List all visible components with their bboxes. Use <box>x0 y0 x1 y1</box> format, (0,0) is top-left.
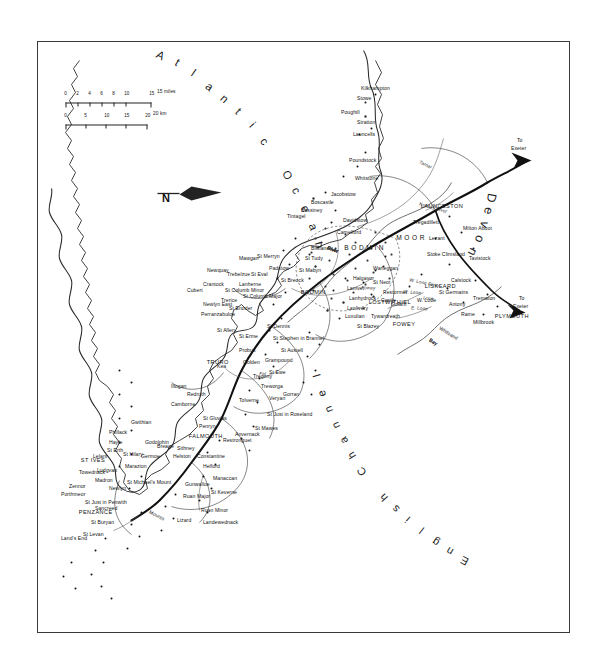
scale-km-unit: 20 km <box>153 112 166 117</box>
place-label-treworga: Treworga <box>260 383 282 388</box>
place-label-germoe: Germoe <box>140 453 159 458</box>
place-label-st-allen: St Allen <box>216 327 234 332</box>
place-label-tolverne: Tolverne <box>238 397 258 402</box>
place-label-st-breock: St Breock <box>280 277 303 282</box>
scale-miles-unit: 15 miles <box>157 90 176 95</box>
place-label-trematon: Trematon <box>472 295 494 300</box>
town-st-ives: ST IVES <box>80 457 105 463</box>
place-label-ruan-minor: Ruan Minor <box>200 507 227 512</box>
river-fowey: Fowey <box>361 286 375 291</box>
place-label-camelford: Camelford <box>336 229 360 234</box>
place-label-marazion: Marazion <box>124 463 146 468</box>
place-label-st-dennis: St Dennis <box>266 323 289 328</box>
place-label-golden: Golden <box>242 359 259 364</box>
place-label-grampound: Grampound <box>264 357 292 362</box>
place-label-st-just-in-roseland: St Just in Roseland <box>266 411 311 416</box>
place-label-st-michael-s-mount: St Michael's Mount <box>126 479 170 484</box>
place-label-lanherne: Lanherne <box>238 281 260 286</box>
arc-letter: D <box>484 192 499 203</box>
place-label-stoke-climsland: Stoke Climsland <box>426 251 464 256</box>
place-label-st-buryan: St Buryan <box>90 519 113 524</box>
river-fal-2: Fal <box>259 372 266 377</box>
place-label-gwithian: Gwithian <box>130 419 150 424</box>
place-label-manaccan: Manaccan <box>212 475 236 480</box>
scale-miles-tick: 8 <box>112 92 115 97</box>
place-label-mawgan: Mawgan <box>238 255 258 260</box>
place-label-antony: Antony <box>448 301 464 306</box>
place-label-tavistock: Tavistock <box>468 255 490 260</box>
place-label-newlyn-east: Newlyn East <box>202 301 231 306</box>
scale-miles-tick: 15 <box>149 92 154 97</box>
place-label-gunwalloe: Gunwalloe <box>184 481 209 486</box>
town-plymouth: PLYMOUTH <box>494 313 528 319</box>
place-label-helston: Helston <box>172 453 190 458</box>
compass-label-n: N <box>162 193 170 204</box>
place-label-millbrook: Millbrook <box>472 319 493 324</box>
place-label-perranzabuloe: Perranzabuloe <box>200 311 234 316</box>
to-exeter-road-label-b: To <box>518 295 524 300</box>
place-label-whitstone: Whitstone <box>354 175 377 180</box>
place-label-tregadillett: Tregadillett <box>412 219 438 224</box>
place-label-land-s-end: Land's End <box>60 535 86 540</box>
place-label-towednack: Towednack <box>78 469 104 474</box>
place-label-newquay: Newquay <box>206 267 228 272</box>
place-label-jacobstow: Jacobstow <box>330 191 355 196</box>
scale-km-tick: 0 <box>64 114 67 119</box>
place-label-luxulian: Luxulian <box>344 313 364 318</box>
river-hayle-line <box>113 512 141 530</box>
place-label-st-stephen-in-brannel: St Stephen in Brannel <box>272 335 323 340</box>
place-label-camborne: Camborne <box>170 401 194 406</box>
moor-label: MOOR <box>396 235 427 242</box>
place-label-gorran: Gorran <box>282 391 298 396</box>
place-label-st-just-in-penwith: St Just in Penwith <box>84 499 126 504</box>
place-label-tywardreath: Tywardreath <box>370 313 399 318</box>
place-label-constantine: Constantine <box>196 453 224 458</box>
place-label-restronguet: Restronguet <box>222 437 251 442</box>
town-bodmin: BODMIN <box>300 289 325 295</box>
place-label-davidstow: Davidstow <box>342 217 366 222</box>
place-label-st-keverne: St Keverne <box>210 489 236 494</box>
river-w-looe: W. Looe <box>402 290 420 296</box>
place-label-landewednack: Landewednack <box>202 519 237 524</box>
place-label-hayle: Hayle <box>108 439 121 444</box>
place-label-lizard: Lizard <box>176 517 190 522</box>
scale-km-tick: 20 <box>145 114 150 119</box>
bodmin-moor-label: BODMIN <box>344 245 386 252</box>
place-label-boscastle: Boscastle <box>310 199 333 204</box>
place-label-lanlivery: Lanlivery <box>346 305 367 310</box>
place-label-stratton: Stratton <box>356 119 374 124</box>
place-label-st-neot: St Neot <box>372 279 390 284</box>
scale-km-tick: 5 <box>84 114 87 119</box>
place-label-madron: Madron <box>94 477 112 482</box>
place-label-zennor: Zennor <box>68 483 85 488</box>
place-label-st-columb-major: St Columb Major <box>242 293 281 298</box>
to-exeter-road-label-b2: Exeter <box>512 303 527 308</box>
place-label-crantock: Crantock <box>202 281 223 286</box>
place-label-tintagel: Tintagel <box>286 213 305 218</box>
place-label-ruan-major: Ruan Major <box>182 493 209 498</box>
map-canvas: KilkhamptonStowePoughillStrattonLauncell… <box>38 42 571 634</box>
place-label-porthmeor: Porthmeor <box>60 491 85 496</box>
place-label-st-erme: St Erme <box>238 333 257 338</box>
place-label-st-blazey: St Blazey <box>356 323 378 328</box>
place-label-st-germains: St Germains <box>438 289 467 294</box>
place-label-sithney: Sithney <box>176 445 194 450</box>
place-label-penryn: Penryn <box>198 423 215 428</box>
place-label-st-tudy: St Tudy <box>304 255 322 260</box>
place-label-st-hilary: St Hilary <box>122 451 142 456</box>
scale-miles-tick: 0 <box>64 92 67 97</box>
place-label-poundstock: Poundstock <box>348 157 375 162</box>
river-e-looe: E. Looe <box>410 306 427 312</box>
map-frame: KilkhamptonStowePoughillStrattonLauncell… <box>37 41 570 633</box>
place-label-warleggan: Warleggan <box>372 265 397 270</box>
town-lostwithiel: LOSTWITHIEL <box>368 299 410 305</box>
place-label-lezant: Lezant <box>428 235 444 240</box>
scale-miles-tick: 4 <box>88 92 91 97</box>
to-exeter-road-label-2: Exeter <box>510 145 525 150</box>
place-label-st-columb-minor: St Columb Minor <box>224 287 263 292</box>
scale-km-tick: 10 <box>104 114 109 119</box>
scale-miles-tick: 2 <box>76 92 79 97</box>
place-label-rame: Rame <box>460 311 474 316</box>
place-label-cubert: Cubert <box>186 287 202 292</box>
place-label-st-merryn: St Merryn <box>256 253 279 258</box>
